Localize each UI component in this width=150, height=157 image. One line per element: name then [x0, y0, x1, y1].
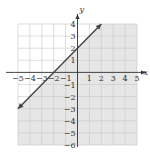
svg-text:−4: −4 [64, 117, 76, 126]
svg-text:4: 4 [70, 20, 75, 29]
svg-text:3: 3 [70, 32, 75, 41]
svg-text:x: x [143, 68, 148, 77]
svg-text:1: 1 [70, 56, 75, 65]
svg-text:−5: −5 [12, 74, 24, 83]
svg-text:−6: −6 [64, 141, 76, 150]
svg-text:2: 2 [99, 74, 104, 83]
inequality-graph: xy −5−4−3−2−1123454321−1−2−3−4−5−6 [0, 0, 150, 157]
svg-text:−2: −2 [64, 93, 76, 102]
svg-text:4: 4 [123, 74, 128, 83]
svg-text:−3: −3 [36, 74, 48, 83]
svg-text:3: 3 [111, 74, 116, 83]
svg-text:−3: −3 [64, 105, 76, 114]
svg-text:5: 5 [134, 74, 139, 83]
svg-text:−5: −5 [64, 129, 76, 138]
svg-text:y: y [79, 5, 85, 14]
svg-text:1: 1 [87, 74, 92, 83]
svg-text:−1: −1 [64, 81, 76, 90]
svg-text:−4: −4 [24, 74, 36, 83]
